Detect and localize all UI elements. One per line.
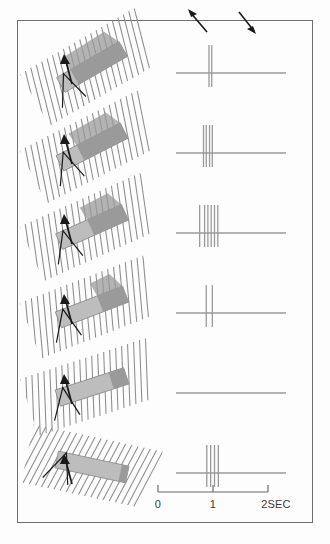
oriented-bar-stimulus-6	[18, 425, 168, 507]
down-right-arrow	[239, 12, 256, 34]
stimulus-response-row-5	[18, 345, 314, 427]
up-left-arrow	[188, 9, 207, 32]
time-axis: 0 1 2SEC	[150, 470, 296, 524]
figure-frame	[17, 20, 313, 523]
spike-train-4	[168, 265, 314, 347]
motion-arrow-group	[150, 0, 296, 40]
oriented-bar-stimulus-1	[18, 25, 168, 107]
axis-tick-label-1: 1	[210, 498, 216, 510]
spike-train-5	[168, 345, 314, 427]
spike-train-3	[168, 185, 314, 267]
stimulus-response-row-2	[18, 105, 314, 187]
axis-tick-label-0: 0	[155, 498, 161, 510]
spike-train-2	[168, 105, 314, 187]
oriented-bar-stimulus-5	[18, 345, 168, 427]
axis-tick-label-2: 2SEC	[261, 498, 291, 510]
figure-root: 0 1 2SEC	[0, 0, 330, 544]
oriented-bar-stimulus-2	[18, 105, 168, 187]
stimulus-response-row-3	[18, 185, 314, 267]
oriented-bar-stimulus-4	[18, 265, 168, 347]
stimulus-response-row-4	[18, 265, 314, 347]
oriented-bar-stimulus-3	[18, 185, 168, 267]
